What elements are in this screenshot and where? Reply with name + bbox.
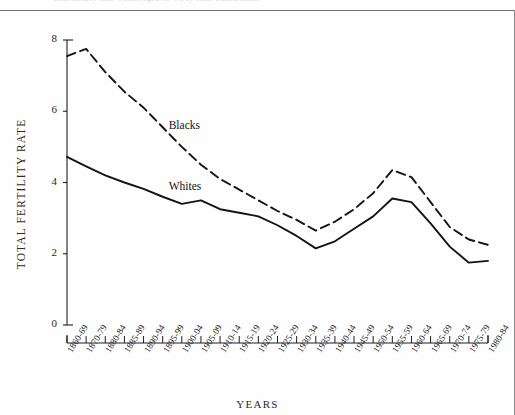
y-axis-tick-label: 6	[37, 103, 57, 115]
series-line-whites	[67, 157, 488, 263]
y-axis-tick-label: 4	[37, 175, 57, 187]
y-axis-title: TOTAL FERTILITY RATE	[15, 99, 27, 289]
chart-series-layer	[67, 49, 488, 263]
x-axis-title: YEARS	[0, 398, 515, 410]
y-axis-tick-label: 2	[37, 246, 57, 258]
chart-axes	[63, 40, 488, 343]
series-label-whites: Whites	[169, 180, 202, 192]
series-label-blacks: Blacks	[169, 119, 200, 131]
series-line-blacks	[67, 49, 488, 245]
figure-page: Total fertility rate, women aged 15-44, …	[0, 0, 515, 415]
y-axis-tick-label: 0	[37, 317, 57, 329]
y-axis-tick-label: 8	[37, 32, 57, 44]
